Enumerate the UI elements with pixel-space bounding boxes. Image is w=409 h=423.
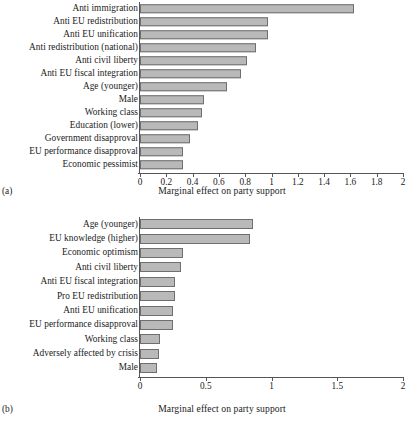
x-tick-label: 1.6	[345, 177, 357, 187]
category-label: EU performance disapproval	[0, 147, 140, 156]
bar-row: Age (younger)	[0, 80, 403, 93]
x-tick-label: 2	[401, 381, 406, 391]
bar-row: Working class	[0, 106, 403, 119]
x-tick-label: 1.5	[331, 381, 343, 391]
panel-a-y-axis	[139, 2, 140, 173]
figure-two-panel-bar-chart: Anti immigrationAnti EU redistributionAn…	[0, 0, 409, 423]
bar-track	[140, 275, 403, 289]
bar	[140, 82, 227, 92]
category-label: Anti civil liberty	[0, 56, 140, 65]
category-label: Anti EU unification	[0, 306, 140, 315]
bar-track	[140, 106, 403, 119]
bar	[140, 277, 175, 287]
category-label: Male	[0, 363, 140, 372]
bar	[140, 234, 250, 244]
x-tick-label: 1.4	[318, 177, 330, 187]
bar-row: EU performance disapproval	[0, 145, 403, 158]
category-label: Age (younger)	[0, 220, 140, 229]
panel-b-x-axis	[138, 377, 403, 378]
bar-row: Age (younger)	[0, 217, 403, 231]
panel-a-bar-rows: Anti immigrationAnti EU redistributionAn…	[0, 2, 403, 171]
bar-row: Working class	[0, 332, 403, 346]
bar-track	[140, 80, 403, 93]
category-label: Anti immigration	[0, 4, 140, 13]
bar-track	[140, 303, 403, 317]
category-label: Working class	[0, 335, 140, 344]
bar	[140, 17, 268, 27]
bar	[140, 56, 247, 66]
bar	[140, 160, 183, 170]
bar-row: Anti civil liberty	[0, 54, 403, 67]
x-tick-label: 0.5	[200, 381, 212, 391]
panel-a: Anti immigrationAnti EU redistributionAn…	[0, 0, 409, 205]
bar-track	[140, 361, 403, 375]
bar	[140, 349, 159, 359]
bar	[140, 121, 198, 131]
bar-track	[140, 158, 403, 171]
bar-track	[140, 15, 403, 28]
category-label: Anti EU fiscal integration	[0, 277, 140, 286]
bar-row: Economic optimism	[0, 246, 403, 260]
bar	[140, 306, 173, 316]
bar-row: Adversely affected by crisis	[0, 347, 403, 361]
x-tick-label: 0	[138, 177, 143, 187]
bar-row: Anti EU redistribution	[0, 15, 403, 28]
bar-row: Anti immigration	[0, 2, 403, 15]
bar	[140, 147, 183, 157]
category-label: Adversely affected by crisis	[0, 349, 140, 358]
bar-row: Anti EU unification	[0, 28, 403, 41]
category-label: Education (lower)	[0, 121, 140, 130]
bar	[140, 4, 354, 14]
bar-track	[140, 347, 403, 361]
x-tick-label: 1	[269, 381, 274, 391]
category-label: Economic optimism	[0, 248, 140, 257]
bar-row: Pro EU redistribution	[0, 289, 403, 303]
bar-track	[140, 41, 403, 54]
panel-b-tag: (b)	[2, 404, 13, 414]
category-label: Male	[0, 95, 140, 104]
bar-track	[140, 93, 403, 106]
bar-row: Male	[0, 361, 403, 375]
category-label: Anti redistribution (national)	[0, 43, 140, 52]
category-label: EU performance disapproval	[0, 320, 140, 329]
category-label: Economic pessimist	[0, 160, 140, 169]
category-label: Anti EU unification	[0, 30, 140, 39]
bar-track	[140, 132, 403, 145]
x-tick-label: 0	[138, 381, 143, 391]
bar-track	[140, 54, 403, 67]
panel-b-axis-title: Marginal effect on party support	[158, 403, 286, 414]
bar	[140, 43, 256, 53]
bar-track	[140, 289, 403, 303]
bar-row: Anti EU unification	[0, 303, 403, 317]
bar	[140, 30, 268, 40]
bar-row: Anti redistribution (national)	[0, 41, 403, 54]
category-label: EU knowledge (higher)	[0, 234, 140, 243]
bar-row: Education (lower)	[0, 119, 403, 132]
panel-b: Age (younger)EU knowledge (higher)Econom…	[0, 205, 409, 423]
bar	[140, 320, 173, 330]
bar	[140, 69, 241, 79]
bar-track	[140, 231, 403, 245]
bar-row: EU performance disapproval	[0, 318, 403, 332]
panel-a-tag: (a)	[2, 186, 12, 196]
x-tick-label: 2	[401, 177, 406, 187]
category-label: Anti civil liberty	[0, 263, 140, 272]
bar	[140, 108, 202, 118]
bar	[140, 95, 204, 105]
bar-track	[140, 318, 403, 332]
bar-track	[140, 217, 403, 231]
bar	[140, 219, 253, 229]
bar	[140, 363, 157, 373]
bar-row: Economic pessimist	[0, 158, 403, 171]
bar-row: EU knowledge (higher)	[0, 231, 403, 245]
x-tick-label: 1.8	[371, 177, 383, 187]
panel-a-axis-title: Marginal effect on party support	[158, 185, 286, 196]
category-label: Anti EU fiscal integration	[0, 69, 140, 78]
bar	[140, 134, 190, 144]
category-label: Working class	[0, 108, 140, 117]
bar	[140, 262, 181, 272]
panel-a-x-axis	[138, 173, 403, 174]
bar	[140, 291, 175, 301]
bar-track	[140, 246, 403, 260]
bar-row: Government disapproval	[0, 132, 403, 145]
